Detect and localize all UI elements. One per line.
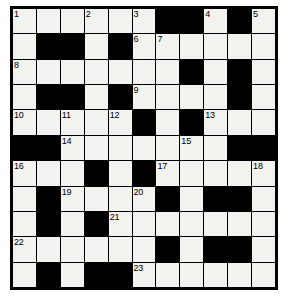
crossword-open-cell[interactable] [61, 212, 84, 236]
cell-number: 9 [134, 85, 139, 95]
crossword-open-cell[interactable] [85, 187, 108, 211]
crossword-open-cell[interactable] [156, 212, 179, 236]
crossword-open-cell[interactable] [156, 136, 179, 160]
crossword-open-cell[interactable]: 13 [204, 110, 227, 134]
crossword-open-cell[interactable] [109, 9, 132, 33]
crossword-open-cell[interactable]: 2 [85, 9, 108, 33]
cell-number: 2 [86, 9, 91, 19]
crossword-open-cell[interactable]: 17 [156, 161, 179, 185]
crossword-open-cell[interactable] [156, 110, 179, 134]
crossword-open-cell[interactable] [61, 9, 84, 33]
crossword-open-cell[interactable] [180, 212, 203, 236]
crossword-grid[interactable]: 1234567891011121314151617181920212223 [10, 6, 278, 290]
crossword-open-cell[interactable] [180, 34, 203, 58]
crossword-open-cell[interactable] [204, 212, 227, 236]
crossword-open-cell[interactable] [85, 110, 108, 134]
crossword-open-cell[interactable] [85, 136, 108, 160]
crossword-open-cell[interactable] [133, 237, 156, 261]
crossword-open-cell[interactable] [252, 60, 275, 84]
crossword-open-cell[interactable] [61, 60, 84, 84]
crossword-open-cell[interactable] [252, 34, 275, 58]
crossword-open-cell[interactable] [109, 187, 132, 211]
crossword-open-cell[interactable]: 15 [180, 136, 203, 160]
crossword-open-cell[interactable] [85, 85, 108, 109]
crossword-open-cell[interactable] [228, 212, 251, 236]
crossword-open-cell[interactable] [204, 34, 227, 58]
crossword-open-cell[interactable] [252, 263, 275, 287]
crossword-block-cell [133, 110, 156, 134]
crossword-open-cell[interactable] [228, 161, 251, 185]
crossword-open-cell[interactable]: 19 [61, 187, 84, 211]
crossword-open-cell[interactable] [156, 60, 179, 84]
crossword-open-cell[interactable] [228, 263, 251, 287]
crossword-open-cell[interactable]: 5 [252, 9, 275, 33]
crossword-open-cell[interactable] [204, 161, 227, 185]
crossword-open-cell[interactable] [109, 60, 132, 84]
crossword-open-cell[interactable]: 21 [109, 212, 132, 236]
crossword-block-cell [204, 187, 227, 211]
crossword-open-cell[interactable] [204, 136, 227, 160]
crossword-open-cell[interactable] [133, 136, 156, 160]
crossword-open-cell[interactable] [252, 212, 275, 236]
crossword-open-cell[interactable] [13, 34, 36, 58]
crossword-block-cell [37, 34, 60, 58]
crossword-open-cell[interactable]: 1 [13, 9, 36, 33]
crossword-open-cell[interactable] [228, 34, 251, 58]
crossword-open-cell[interactable]: 10 [13, 110, 36, 134]
crossword-open-cell[interactable]: 9 [133, 85, 156, 109]
crossword-open-cell[interactable] [85, 34, 108, 58]
crossword-open-cell[interactable]: 4 [204, 9, 227, 33]
crossword-open-cell[interactable] [180, 85, 203, 109]
crossword-open-cell[interactable] [252, 237, 275, 261]
crossword-open-cell[interactable] [37, 110, 60, 134]
crossword-open-cell[interactable] [204, 60, 227, 84]
crossword-open-cell[interactable] [13, 187, 36, 211]
crossword-open-cell[interactable] [252, 187, 275, 211]
crossword-open-cell[interactable]: 8 [13, 60, 36, 84]
crossword-open-cell[interactable] [37, 9, 60, 33]
crossword-open-cell[interactable] [204, 85, 227, 109]
crossword-open-cell[interactable]: 11 [61, 110, 84, 134]
crossword-open-cell[interactable]: 3 [133, 9, 156, 33]
crossword-open-cell[interactable] [13, 263, 36, 287]
crossword-open-cell[interactable] [109, 136, 132, 160]
crossword-open-cell[interactable] [85, 60, 108, 84]
crossword-open-cell[interactable] [204, 263, 227, 287]
crossword-open-cell[interactable] [156, 85, 179, 109]
crossword-open-cell[interactable] [37, 237, 60, 261]
crossword-open-cell[interactable] [37, 60, 60, 84]
crossword-open-cell[interactable] [13, 85, 36, 109]
cell-number: 12 [110, 110, 120, 120]
crossword-open-cell[interactable] [61, 237, 84, 261]
crossword-open-cell[interactable] [61, 263, 84, 287]
crossword-open-cell[interactable]: 6 [133, 34, 156, 58]
crossword-open-cell[interactable] [37, 161, 60, 185]
cell-number: 11 [62, 110, 71, 120]
crossword-open-cell[interactable] [13, 212, 36, 236]
crossword-open-cell[interactable] [228, 110, 251, 134]
crossword-block-cell [180, 9, 203, 33]
crossword-open-cell[interactable] [85, 237, 108, 261]
crossword-open-cell[interactable] [180, 161, 203, 185]
crossword-open-cell[interactable] [109, 161, 132, 185]
crossword-open-cell[interactable]: 18 [252, 161, 275, 185]
crossword-open-cell[interactable] [180, 263, 203, 287]
crossword-open-cell[interactable]: 16 [13, 161, 36, 185]
crossword-open-cell[interactable] [61, 161, 84, 185]
crossword-block-cell [180, 110, 203, 134]
crossword-open-cell[interactable] [252, 85, 275, 109]
crossword-open-cell[interactable] [133, 60, 156, 84]
crossword-open-cell[interactable]: 23 [133, 263, 156, 287]
crossword-open-cell[interactable] [180, 187, 203, 211]
crossword-open-cell[interactable]: 22 [13, 237, 36, 261]
crossword-open-cell[interactable] [133, 212, 156, 236]
crossword-open-cell[interactable] [180, 237, 203, 261]
crossword-block-cell [109, 34, 132, 58]
crossword-open-cell[interactable] [252, 110, 275, 134]
crossword-open-cell[interactable]: 7 [156, 34, 179, 58]
crossword-open-cell[interactable]: 14 [61, 136, 84, 160]
crossword-open-cell[interactable]: 12 [109, 110, 132, 134]
crossword-open-cell[interactable] [109, 237, 132, 261]
crossword-open-cell[interactable]: 20 [133, 187, 156, 211]
crossword-open-cell[interactable] [156, 263, 179, 287]
